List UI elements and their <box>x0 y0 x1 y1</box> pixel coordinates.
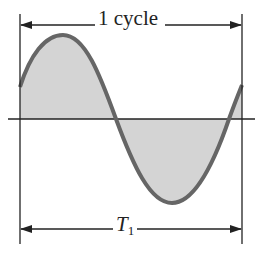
period-symbol: T <box>116 212 128 236</box>
cycle-label: 1 cycle <box>95 8 161 29</box>
period-label: T1 <box>113 214 137 237</box>
period-subscript: 1 <box>128 223 135 238</box>
